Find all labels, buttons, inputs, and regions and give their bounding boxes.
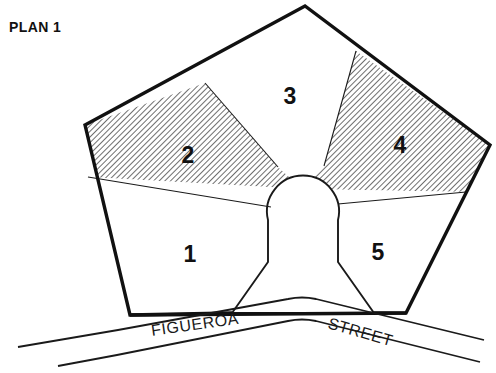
- parcel-label-5: 5: [372, 239, 385, 265]
- plan-drawing: 1 2 3 4 5 FIGUEROA STREET: [0, 0, 496, 373]
- parcel-label-3: 3: [284, 83, 297, 109]
- parcel-label-2: 2: [182, 142, 195, 168]
- site-plan-figure: PLAN 1: [0, 0, 496, 373]
- page-title: PLAN 1: [9, 19, 61, 35]
- curb-near: [18, 298, 484, 348]
- curb-far: [58, 320, 480, 367]
- street-label-street: STREET: [326, 315, 395, 350]
- parcel-label-4: 4: [394, 132, 407, 158]
- parcel-label-1: 1: [184, 241, 197, 267]
